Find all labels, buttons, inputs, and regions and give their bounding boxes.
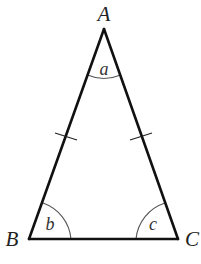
side-ac	[104, 29, 178, 239]
isosceles-triangle-diagram: A B C a b c	[0, 0, 201, 264]
angle-label-c: c	[149, 214, 157, 234]
angle-label-a: a	[100, 59, 109, 79]
vertex-label-b: B	[6, 227, 19, 251]
side-ab	[29, 29, 104, 239]
vertex-label-c: C	[185, 227, 200, 251]
angle-label-b: b	[46, 214, 55, 234]
vertex-label-a: A	[96, 2, 111, 26]
